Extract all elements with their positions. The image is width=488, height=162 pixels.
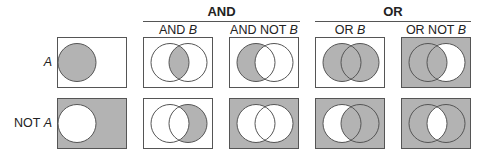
column-title-or-not-b: OR NOT B [391, 23, 481, 37]
column-prefix: AND NOT [230, 23, 290, 37]
column-var: B [290, 23, 298, 37]
venn-not-a [57, 98, 127, 149]
group-title-and: AND [143, 4, 300, 19]
group-rule-or [315, 21, 471, 22]
column-var: B [458, 23, 466, 37]
venn-a-and-not-b [229, 37, 299, 88]
column-prefix: OR [335, 23, 357, 37]
venn-a [57, 37, 127, 88]
column-title-or-b: OR B [305, 23, 395, 37]
row-label-not-a: NOT A [2, 116, 52, 130]
column-var: B [357, 23, 365, 37]
column-var: B [189, 23, 197, 37]
venn-not-a-and-not-b [229, 98, 299, 149]
venn-not-a-or-b [315, 98, 385, 149]
group-rule-and [143, 21, 300, 22]
row-prefix: NOT [14, 116, 44, 130]
group-title-or: OR [315, 4, 471, 19]
row-label-a: A [2, 55, 52, 69]
venn-a-and-b [143, 37, 213, 88]
column-prefix: OR NOT [406, 23, 458, 37]
row-var: A [44, 55, 52, 69]
venn-not-a-and-b [143, 98, 213, 149]
venn-a-or-b [315, 37, 385, 88]
venn-not-a-or-not-b [401, 98, 471, 149]
column-title-and-b: AND B [133, 23, 223, 37]
column-prefix: AND [159, 23, 189, 37]
row-var: A [44, 116, 52, 130]
venn-a-or-not-b [401, 37, 471, 88]
column-title-and-not-b: AND NOT B [219, 23, 309, 37]
